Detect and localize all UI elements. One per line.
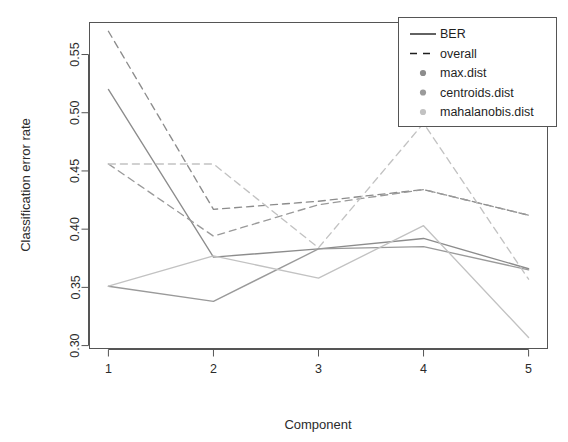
y-tick-label: 0.50 (69, 101, 83, 125)
x-tick-label: 3 (315, 362, 322, 376)
legend-label: centroids.dist (440, 86, 514, 100)
legend-label: mahalanobis.dist (440, 105, 534, 119)
x-tick-label: 2 (210, 362, 217, 376)
x-tick-label: 5 (525, 362, 532, 376)
y-tick-label: 0.35 (69, 275, 83, 299)
y-tick-label: 0.45 (69, 159, 83, 183)
x-tick-label: 4 (420, 362, 427, 376)
legend-label: overall (440, 47, 477, 61)
y-tick-label: 0.40 (69, 217, 83, 241)
legend-dot-swatch (420, 89, 426, 95)
chart-legend: BERoverallmax.distcentroids.distmahalano… (399, 18, 557, 127)
x-axis-title: Component (284, 417, 352, 432)
y-tick-label: 0.30 (69, 333, 83, 357)
chart-container: 0.300.350.400.450.500.55 12345 Component… (0, 0, 568, 442)
legend-label: max.dist (440, 66, 487, 80)
legend-label: BER (440, 27, 466, 41)
y-tick-label: 0.55 (69, 42, 83, 66)
legend-dot-swatch (420, 109, 426, 115)
x-tick-label: 1 (105, 362, 112, 376)
classification-error-rate-chart: 0.300.350.400.450.500.55 12345 Component… (0, 0, 568, 442)
y-axis-title: Classification error rate (18, 118, 33, 252)
legend-dot-swatch (420, 70, 426, 76)
